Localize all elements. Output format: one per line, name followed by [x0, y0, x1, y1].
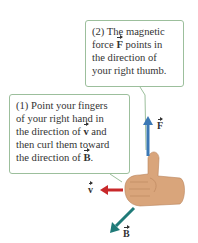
text: points in [123, 39, 162, 50]
vector-v: v [83, 125, 88, 138]
text: force [92, 39, 116, 50]
callout-2-pointer [140, 87, 146, 150]
callout-2-line-1: (2) The magnetic [92, 25, 177, 38]
label-B: B [123, 228, 130, 239]
vector-F: F [116, 38, 122, 51]
text: the direction of [16, 152, 83, 163]
velocity-arrow-icon [100, 185, 123, 195]
text: the direction of [16, 126, 83, 137]
vector-B: B [83, 151, 90, 164]
callout-2-line-2: force F points in [92, 38, 177, 51]
label-F: F [157, 120, 163, 131]
magnetic-field-arrow-icon [110, 208, 134, 233]
callout-2-line-4: your right thumb. [92, 64, 177, 77]
callout-1-line-2: of your right hand in [16, 112, 123, 125]
label-v: v [88, 184, 93, 195]
text: and [89, 126, 107, 137]
callout-1-line-4: then curl them toward [16, 138, 123, 151]
callout-point-fingers: (1) Point your fingers of your right han… [9, 94, 130, 174]
callout-1-line-1: (1) Point your fingers [16, 99, 123, 112]
right-hand-icon [125, 152, 185, 206]
callout-1-pointer [110, 174, 122, 182]
callout-2-line-3: the direction of [92, 51, 177, 64]
callout-magnetic-force: (2) The magnetic force F points in the d… [85, 20, 184, 87]
callout-1-line-3: the direction of v and [16, 125, 123, 138]
force-arrow-icon [143, 116, 153, 156]
callout-1-line-5: the direction of B. [16, 151, 123, 164]
text: . [90, 152, 93, 163]
